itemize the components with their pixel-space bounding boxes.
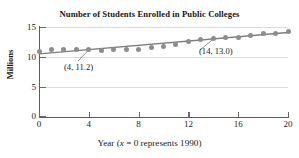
data-point (149, 45, 154, 50)
data-point (124, 47, 129, 52)
data-point (37, 49, 42, 54)
annotation-point-a: (4, 11.2) (64, 62, 93, 72)
data-point (86, 47, 91, 52)
data-point (49, 47, 54, 52)
annotation-point-b: (14, 13.0) (199, 46, 233, 56)
data-point (74, 47, 79, 52)
chart-figure: Number of Students Enrolled in Public Co… (0, 0, 299, 158)
chart-overlay (0, 0, 299, 158)
data-point (286, 29, 291, 34)
data-point (136, 47, 141, 52)
data-point (261, 31, 266, 36)
data-point (236, 35, 241, 40)
data-point (99, 48, 104, 53)
